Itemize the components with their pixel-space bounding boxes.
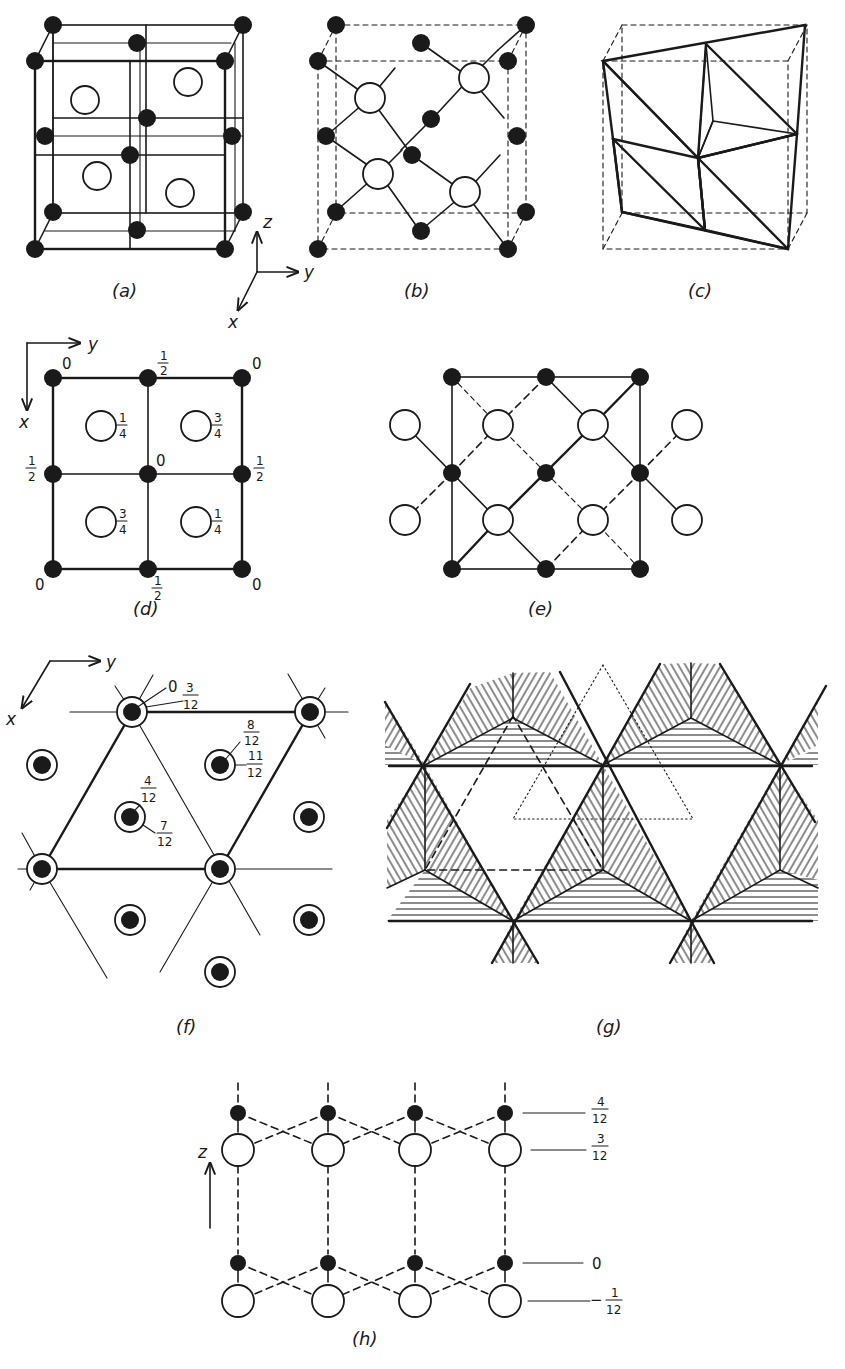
caption-d: (d) xyxy=(133,598,158,619)
caption-f: (f) xyxy=(176,1016,196,1037)
panel-e: (e) xyxy=(390,368,702,619)
panel-b: (b) xyxy=(309,16,535,301)
open-atoms-b xyxy=(355,63,489,207)
panel-g: (g) xyxy=(385,663,826,1037)
svg-text:3: 3 xyxy=(119,507,127,521)
svg-text:x: x xyxy=(227,312,239,332)
svg-text:12: 12 xyxy=(247,766,262,780)
svg-text:2: 2 xyxy=(28,470,36,484)
svg-text:4: 4 xyxy=(119,523,127,537)
crystal-structure-figure: (a) z y x xyxy=(0,0,845,1369)
svg-text:1: 1 xyxy=(160,349,168,363)
svg-text:x: x xyxy=(5,709,17,729)
svg-text:12: 12 xyxy=(157,835,172,849)
vertical-bonds-h xyxy=(238,1083,505,1282)
panel-f: y x xyxy=(5,652,348,1037)
svg-text:4: 4 xyxy=(144,774,152,788)
svg-text:1: 1 xyxy=(611,1286,619,1300)
svg-text:2: 2 xyxy=(256,470,264,484)
panel-c: (c) xyxy=(603,25,807,301)
tetrahedra-c xyxy=(603,25,805,249)
zigzag-bonds-h xyxy=(238,1113,505,1301)
black-atoms-b xyxy=(309,16,535,258)
svg-text:0: 0 xyxy=(252,355,262,373)
svg-text:x: x xyxy=(18,412,30,432)
panel-h: z xyxy=(197,1083,622,1349)
caption-g: (g) xyxy=(596,1016,621,1037)
caption-a: (a) xyxy=(112,280,137,301)
black-atoms-a xyxy=(26,16,252,258)
panel-a: (a) z y x xyxy=(26,16,315,332)
svg-text:y: y xyxy=(87,334,99,354)
svg-text:3: 3 xyxy=(186,681,194,695)
svg-text:1: 1 xyxy=(154,574,162,588)
svg-text:2: 2 xyxy=(160,364,168,378)
svg-text:11: 11 xyxy=(248,749,263,763)
svg-text:4: 4 xyxy=(597,1095,605,1109)
svg-text:0: 0 xyxy=(156,452,166,470)
svg-text:3: 3 xyxy=(597,1132,605,1146)
bonds-b xyxy=(318,25,526,249)
svg-text:3: 3 xyxy=(214,411,222,425)
panel-d: y x 0 0 0 0 0 12 xyxy=(18,334,264,619)
svg-text:1: 1 xyxy=(256,454,264,468)
svg-text:12: 12 xyxy=(592,1112,607,1126)
svg-text:4: 4 xyxy=(214,427,222,441)
svg-text:1: 1 xyxy=(214,507,222,521)
svg-text:12: 12 xyxy=(606,1303,621,1317)
svg-text:1: 1 xyxy=(28,454,36,468)
svg-text:z: z xyxy=(197,1142,208,1162)
svg-text:z: z xyxy=(262,212,273,232)
axes-xyz: z y x xyxy=(227,212,315,332)
caption-c: (c) xyxy=(688,280,712,301)
svg-text:y: y xyxy=(303,262,315,282)
level-0: 0 xyxy=(592,1255,602,1273)
height-labels-f: 0 312 812 1112 412 712 xyxy=(132,678,263,849)
svg-text:12: 12 xyxy=(183,698,198,712)
svg-text:4: 4 xyxy=(214,523,222,537)
svg-text:12: 12 xyxy=(244,734,259,748)
svg-text:y: y xyxy=(105,652,117,672)
svg-text:7: 7 xyxy=(160,819,168,833)
level-minus-1-12: 112 xyxy=(606,1286,622,1317)
svg-text:0: 0 xyxy=(35,576,45,594)
caption-b: (b) xyxy=(404,280,429,301)
svg-text:8: 8 xyxy=(247,718,255,732)
svg-text:1: 1 xyxy=(119,411,127,425)
svg-text:12: 12 xyxy=(592,1149,607,1163)
svg-text:12: 12 xyxy=(141,791,156,805)
svg-text:0: 0 xyxy=(168,678,178,696)
level-3-12: 312 xyxy=(592,1132,608,1163)
level-labels-h: 412 312 0 − 112 xyxy=(523,1095,622,1317)
svg-text:4: 4 xyxy=(119,427,127,441)
open-atoms-a xyxy=(71,68,202,207)
svg-text:0: 0 xyxy=(62,355,72,373)
caption-h: (h) xyxy=(352,1328,377,1349)
black-atoms-h xyxy=(230,1105,513,1271)
svg-text:−: − xyxy=(590,1291,603,1309)
svg-text:0: 0 xyxy=(252,576,262,594)
caption-e: (e) xyxy=(528,598,553,619)
level-4-12: 412 xyxy=(592,1095,608,1126)
